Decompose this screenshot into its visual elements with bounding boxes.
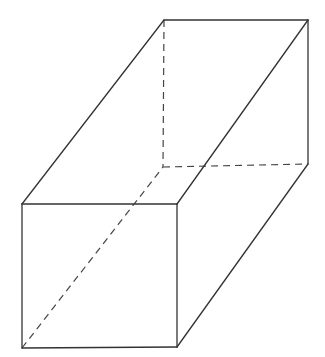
hidden-edge-front-bottom-left-to-back-bottom-left [22,167,163,348]
hidden-edge-back-top-left-to-back-bottom-left [163,20,164,167]
visible-edge-front-bottom-right-to-front-bottom-left [22,347,177,348]
visible-edge-front-top-left-to-back-top-left [22,20,164,204]
visible-edge-front-top-right-to-back-top-right [177,20,308,204]
visible-edge-front-bottom-right-to-back-bottom-right [177,164,308,347]
hidden-edge-back-bottom-left-to-back-bottom-right [163,164,308,167]
hidden-edges [22,20,308,348]
visible-edges [22,20,308,348]
rectangular-prism-diagram [0,0,325,357]
